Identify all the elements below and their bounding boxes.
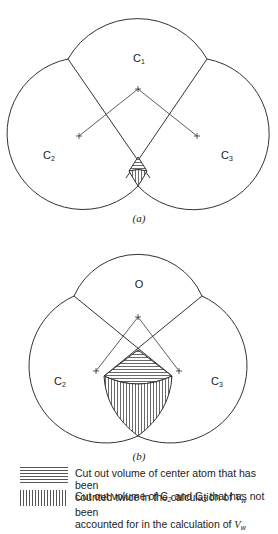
atom-centers	[76, 86, 200, 139]
diagram-a	[7, 19, 269, 210]
label-c2-a: C2	[43, 149, 55, 162]
label-c2-b: C2	[54, 375, 66, 388]
vertical-hatch-swatch	[20, 490, 68, 506]
circle-c3-arc	[138, 59, 269, 210]
caption-b: (b)	[133, 450, 146, 462]
circle-c2-arc	[7, 59, 138, 209]
hatch-region-horizontal-b	[104, 350, 172, 384]
label-c3-b: C3	[211, 375, 223, 388]
label-o: O	[135, 278, 144, 290]
bond-lines	[79, 89, 197, 136]
horizontal-hatch-swatch	[20, 467, 68, 483]
legend-item-vertical: Cut out volume of C2 and C3 that has not…	[20, 490, 278, 534]
hatch-region-vertical-b	[104, 376, 172, 436]
hatch-region-vertical-a	[129, 170, 147, 187]
caption-a: (a)	[133, 212, 146, 224]
label-c1: C1	[133, 52, 145, 65]
legend-text-vertical: Cut out volume of C2 and C3 that has not…	[75, 490, 278, 534]
hatch-region-horizontal-a	[129, 157, 147, 171]
label-c3-a: C3	[221, 149, 233, 162]
